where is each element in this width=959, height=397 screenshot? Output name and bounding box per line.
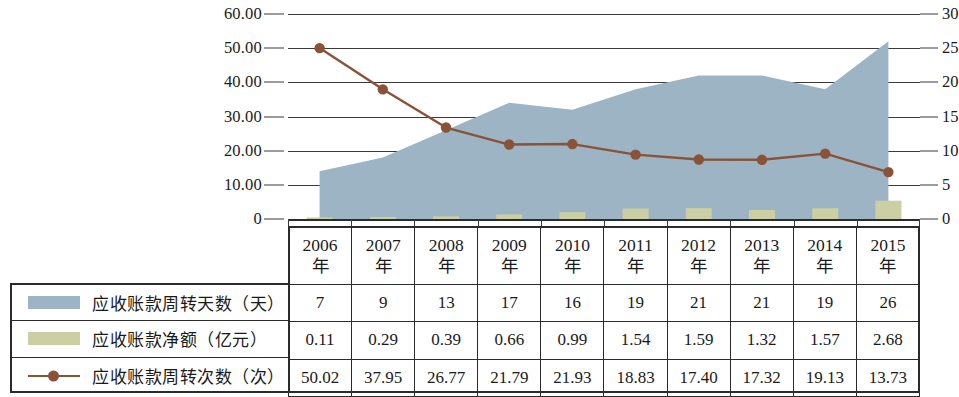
cell-s0-2008: 13 [415, 285, 478, 322]
year-number: 2015 [857, 235, 919, 256]
table-header-row: 2006年2007年2008年2009年2010年2011年2012年2013年… [289, 227, 920, 285]
left-axis-tickmark-50 [264, 48, 284, 49]
left-axis-tick-20: 20.00 [224, 141, 262, 161]
legend-column: 应收账款周转天数（天） 应收账款净额（亿元） 应收账款周转次数（次） [10, 283, 289, 393]
legend-item-days: 应收账款周转天数（天） [12, 285, 289, 321]
table-header-2008: 2008年 [415, 227, 478, 285]
cell-s1-2013: 1.32 [730, 322, 793, 359]
category-tick-8 [794, 219, 795, 226]
legend-label-turnover: 应收账款周转次数（次） [92, 363, 285, 388]
line-swatch-icon [28, 369, 80, 382]
category-tick-7 [730, 219, 731, 226]
bar-2015 [875, 201, 901, 219]
right-axis-tick-25: 25 [942, 38, 959, 58]
cell-s0-2012: 21 [667, 285, 730, 322]
cell-s2-2008: 26.77 [415, 359, 478, 396]
right-axis-tick-30: 30 [942, 4, 959, 24]
cell-s0-2009: 17 [478, 285, 541, 322]
line-marker-2014 [820, 148, 830, 158]
year-number: 2008 [415, 235, 477, 256]
right-axis-tick-15: 15 [942, 107, 959, 127]
right-axis-tick-5: 5 [942, 175, 950, 195]
chart-svg [288, 14, 920, 219]
table-row: 50.0237.9526.7721.7921.9318.8317.4017.32… [289, 359, 920, 396]
line-marker-2013 [757, 155, 767, 165]
cell-s1-2010: 0.99 [541, 322, 604, 359]
left-axis-tick-0: 0 [254, 209, 262, 229]
table-header-2006: 2006年 [289, 227, 352, 285]
left-axis-tickmark-20 [264, 150, 284, 151]
legend-label-days: 应收账款周转天数（天） [92, 290, 285, 315]
category-tick-10 [919, 219, 920, 226]
left-axis-tick-40: 40.00 [224, 72, 262, 92]
right-axis-tickmark-25 [920, 48, 938, 49]
chart-region: 010.0020.0030.0040.0050.0060.00 05101520… [0, 0, 954, 228]
year-number: 2014 [794, 235, 856, 256]
category-tick-1 [351, 219, 352, 226]
line-marker-2015 [883, 167, 893, 177]
year-suffix: 年 [857, 256, 919, 277]
year-suffix: 年 [794, 256, 856, 277]
table-row: 791317161921211926 [289, 285, 920, 322]
data-table: 2006年2007年2008年2009年2010年2011年2012年2013年… [288, 226, 920, 397]
cell-s1-2009: 0.66 [478, 322, 541, 359]
category-tick-5 [604, 219, 605, 226]
table-header-2013: 2013年 [730, 227, 793, 285]
cell-s2-2013: 17.32 [730, 359, 793, 396]
cell-s0-2015: 26 [856, 285, 919, 322]
cell-s1-2014: 1.57 [793, 322, 856, 359]
bar-2010 [559, 212, 585, 219]
cell-s2-2006: 50.02 [289, 359, 352, 396]
cell-s2-2010: 21.93 [541, 359, 604, 396]
cell-s2-2009: 21.79 [478, 359, 541, 396]
category-tick-0 [288, 219, 289, 226]
year-suffix: 年 [352, 256, 414, 277]
bar-2013 [749, 210, 775, 219]
right-axis-tickmark-30 [920, 14, 938, 15]
cell-s0-2006: 7 [289, 285, 352, 322]
bar-2012 [686, 208, 712, 219]
bar-2011 [623, 208, 649, 219]
left-axis-tickmark-40 [264, 82, 284, 83]
category-tick-2 [414, 219, 415, 226]
cell-s2-2014: 19.13 [793, 359, 856, 396]
area-swatch-icon [28, 296, 80, 309]
table-header-2010: 2010年 [541, 227, 604, 285]
category-tick-4 [541, 219, 542, 226]
table-header-2009: 2009年 [478, 227, 541, 285]
table-header-2007: 2007年 [352, 227, 415, 285]
year-number: 2007 [352, 235, 414, 256]
right-axis-tick-20: 20 [942, 72, 959, 92]
cell-s1-2012: 1.59 [667, 322, 730, 359]
legend-label-netamount: 应收账款净额（亿元） [92, 326, 267, 351]
legend-item-turnover: 应收账款周转次数（次） [12, 358, 289, 394]
cell-s0-2011: 19 [604, 285, 667, 322]
cell-s1-2007: 0.29 [352, 322, 415, 359]
left-axis-tick-50: 50.00 [224, 38, 262, 58]
cell-s1-2006: 0.11 [289, 322, 352, 359]
table-header-2014: 2014年 [793, 227, 856, 285]
right-axis-tick-0: 0 [942, 209, 950, 229]
left-axis-tickmark-60 [264, 14, 284, 15]
cell-s2-2011: 18.83 [604, 359, 667, 396]
right-axis-tickmark-15 [920, 116, 938, 117]
table-row: 0.110.290.390.660.991.541.591.321.572.68 [289, 322, 920, 359]
cell-s0-2013: 21 [730, 285, 793, 322]
year-suffix: 年 [731, 256, 793, 277]
plot-area [288, 14, 920, 219]
year-suffix: 年 [668, 256, 730, 277]
right-axis-tickmark-20 [920, 82, 938, 83]
table-header-2011: 2011年 [604, 227, 667, 285]
year-number: 2009 [478, 235, 540, 256]
bar-2014 [812, 208, 838, 219]
year-number: 2006 [289, 235, 351, 256]
area-series-days [320, 41, 889, 219]
right-axis: 051015202530 [920, 14, 954, 219]
table-header-2012: 2012年 [667, 227, 730, 285]
category-tick-3 [478, 219, 479, 226]
year-suffix: 年 [541, 256, 603, 277]
line-marker-2008 [441, 122, 451, 132]
year-suffix: 年 [478, 256, 540, 277]
right-axis-tickmark-10 [920, 150, 938, 151]
